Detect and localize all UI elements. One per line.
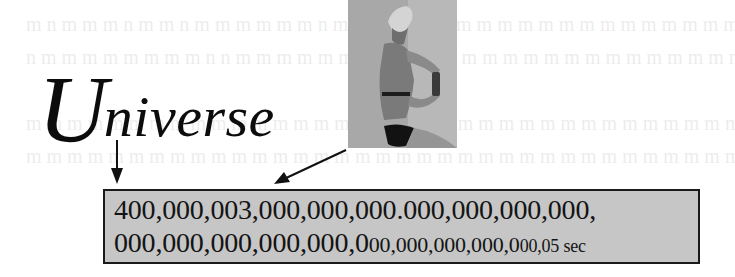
- diagonal-arrow-icon: [272, 148, 348, 186]
- number-box: 400,000,003,000,000,000.000,000,000,000,…: [103, 189, 700, 264]
- number-line-2-tiny: 00,05 sec: [520, 236, 586, 256]
- heading-rest: niverse: [104, 84, 275, 149]
- number-line-2-main: 000,000,000,000,000,0: [114, 227, 369, 258]
- number-line-2: 000,000,000,000,000,000,000,000,000,000,…: [114, 229, 586, 257]
- heading-initial: U: [38, 56, 108, 163]
- number-line-2-small: 00,000,000,000,0: [369, 232, 520, 257]
- figure-image: [348, 0, 457, 148]
- number-line-1: 400,000,003,000,000,000.000,000,000,000,: [114, 196, 596, 224]
- universe-heading: Universe: [38, 56, 275, 152]
- woman-illustration-icon: [348, 0, 457, 148]
